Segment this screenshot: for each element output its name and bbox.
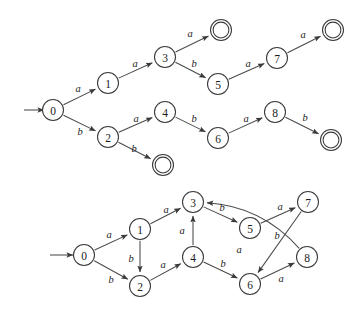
state-label: 1 xyxy=(105,78,111,90)
transition-label-t7-t6: b xyxy=(274,230,279,241)
transition-label-t8-t3: a xyxy=(236,244,241,255)
state-label: 7 xyxy=(274,53,280,65)
state-node-5[interactable]: 5 xyxy=(240,218,261,239)
state-node-accept[interactable] xyxy=(321,130,342,151)
state-label: 3 xyxy=(190,197,196,209)
state-node-3[interactable]: 3 xyxy=(183,192,204,213)
state-circle xyxy=(153,155,174,176)
transition-label-t1-t3: a xyxy=(163,204,168,215)
state-label: 5 xyxy=(247,223,253,235)
transition-label-s0-s1: a xyxy=(75,83,80,94)
transition-label-s4-s6: b xyxy=(191,113,196,124)
state-label: 6 xyxy=(247,279,253,291)
state-node-2[interactable]: 2 xyxy=(130,276,151,297)
transition-label-s1-s3: a xyxy=(132,58,137,69)
state-node-4[interactable]: 4 xyxy=(155,102,176,123)
transition-t7-t6-b xyxy=(258,212,301,273)
figure-canvas: 012345678012345678 abaabaaabbabababaabba… xyxy=(0,0,362,309)
transition-label-t5-t7: a xyxy=(277,201,282,212)
state-label: 6 xyxy=(215,133,221,145)
state-node-0[interactable]: 0 xyxy=(74,245,95,266)
state-node-0[interactable]: 0 xyxy=(43,100,64,121)
transition-label-t1-t2: b xyxy=(128,253,133,264)
state-node-7[interactable]: 7 xyxy=(267,48,288,69)
transition-label-s2-s4: a xyxy=(133,113,138,124)
transition-label-t0-t2: b xyxy=(108,274,113,285)
state-node-2[interactable]: 2 xyxy=(98,127,119,148)
state-node-6[interactable]: 6 xyxy=(208,128,229,149)
state-node-6[interactable]: 6 xyxy=(240,274,261,295)
transition-label-t6-t8: a xyxy=(278,273,283,284)
automata-svg: 012345678012345678 abaabaaabbabababaabba… xyxy=(0,0,362,309)
state-label: 4 xyxy=(190,252,196,264)
state-node-accept[interactable] xyxy=(153,155,174,176)
transition-label-t3-t5: b xyxy=(219,202,224,213)
state-node-5[interactable]: 5 xyxy=(208,74,229,95)
transition-label-t4-t6: b xyxy=(220,258,225,269)
state-node-3[interactable]: 3 xyxy=(155,47,176,68)
state-circle xyxy=(211,20,232,41)
state-label: 0 xyxy=(81,250,87,262)
state-node-7[interactable]: 7 xyxy=(298,192,319,213)
state-label: 5 xyxy=(215,79,221,91)
state-label: 8 xyxy=(304,252,310,264)
state-label: 2 xyxy=(137,281,143,293)
state-node-accept[interactable] xyxy=(211,20,232,41)
transition-label-s5-s7: a xyxy=(245,58,250,69)
state-label: 8 xyxy=(272,107,278,119)
state-node-1[interactable]: 1 xyxy=(130,219,151,240)
state-label: 3 xyxy=(162,52,168,64)
state-node-8[interactable]: 8 xyxy=(297,247,318,268)
transition-label-t4-t3: a xyxy=(179,225,184,236)
edges-layer xyxy=(24,36,321,280)
transition-label-s2-f3: b xyxy=(131,143,136,154)
transition-label-s6-s8: a xyxy=(243,113,248,124)
state-label: 1 xyxy=(137,224,143,236)
state-node-accept[interactable] xyxy=(323,20,344,41)
state-circle xyxy=(323,20,344,41)
state-label: 2 xyxy=(105,132,111,144)
state-label: 7 xyxy=(305,197,311,209)
state-node-1[interactable]: 1 xyxy=(98,73,119,94)
transition-label-t2-t4: a xyxy=(160,259,165,270)
state-circle xyxy=(321,130,342,151)
state-node-8[interactable]: 8 xyxy=(265,102,286,123)
state-label: 0 xyxy=(50,105,56,117)
state-label: 4 xyxy=(162,107,168,119)
transition-label-s3-s5: b xyxy=(191,58,196,69)
transition-label-s7-f2: a xyxy=(300,29,305,40)
transition-label-s8-f4: b xyxy=(302,112,307,123)
transition-label-t0-t1: a xyxy=(106,229,111,240)
transition-label-s0-s2: b xyxy=(77,126,82,137)
state-node-4[interactable]: 4 xyxy=(183,247,204,268)
transition-label-s3-f1: a xyxy=(187,28,192,39)
